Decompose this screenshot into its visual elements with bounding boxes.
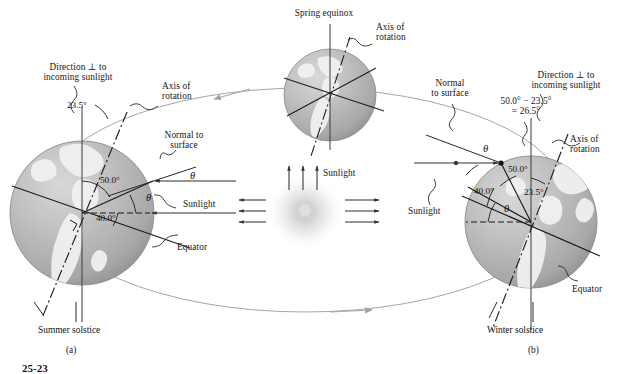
normal-to-surface-label-right: Normal to surface bbox=[414, 78, 486, 99]
leader-axis-top bbox=[348, 38, 372, 46]
equator-label-left: Equator bbox=[177, 242, 207, 252]
lower-angle-label-right: 40.0° bbox=[474, 186, 494, 196]
upper-angle-label-left: 50.0° bbox=[100, 175, 120, 185]
spring-equinox-caption: Spring equinox bbox=[276, 8, 372, 18]
leader-sunlight-left bbox=[154, 195, 176, 208]
theta-lower-right: θ bbox=[504, 203, 509, 214]
leader-normal-right bbox=[449, 104, 455, 131]
normal-to-surface-right bbox=[426, 135, 501, 163]
panel-letter-a: (a) bbox=[66, 345, 76, 355]
arc-theta-upper-right bbox=[466, 165, 478, 175]
leader-equator-left bbox=[152, 235, 178, 247]
normal-to-surface-label-left: Normal to surface bbox=[148, 130, 220, 151]
lower-angle-label-left: 40.0° bbox=[96, 213, 116, 223]
equator-label-right: Equator bbox=[572, 284, 602, 294]
tilt-angle-label-right: 23.5° bbox=[524, 187, 544, 197]
leader-normal-left bbox=[160, 150, 176, 159]
computed-angle-label-right: 50.0° − 23.5° = 26.5° bbox=[482, 96, 570, 117]
axis-of-rotation-label-top: Axis of rotation bbox=[376, 22, 406, 43]
leader-sunlight-right bbox=[428, 179, 435, 205]
summer-solstice-caption: Summer solstice bbox=[38, 325, 100, 335]
theta-upper-right: θ bbox=[483, 143, 488, 154]
sun bbox=[267, 174, 343, 250]
tilt-angle-label-left: 23.5° bbox=[67, 100, 87, 110]
theta-lower-left: θ bbox=[146, 192, 151, 203]
axis-of-rotation-label-left: Axis of rotation bbox=[162, 81, 192, 102]
sunlight-label-left: Sunlight bbox=[183, 199, 215, 209]
axis-of-rotation-label-right: Axis of rotation bbox=[570, 134, 600, 155]
winter-solstice-caption: Winter solstice bbox=[487, 325, 543, 335]
sunlight-label-center: Sunlight bbox=[323, 168, 355, 178]
leader-axis-left bbox=[130, 104, 158, 110]
sunlight-label-right: Sunlight bbox=[408, 206, 440, 216]
leader-2650-right bbox=[523, 122, 528, 146]
theta-upper-left: θ bbox=[190, 170, 195, 181]
perpendicular-direction-label-left: Direction ⊥ to incoming sunlight bbox=[20, 62, 136, 83]
arc-23p5-left bbox=[95, 105, 108, 119]
figure-number: 25-23 bbox=[22, 362, 48, 374]
ray-dot-right bbox=[454, 161, 458, 165]
earth-spring-equinox bbox=[284, 24, 384, 156]
perpendicular-direction-label-right: Direction ⊥ to incoming sunlight bbox=[508, 70, 623, 91]
panel-letter-b: (b) bbox=[528, 345, 539, 355]
upper-angle-label-right: 50.0° bbox=[508, 164, 528, 174]
